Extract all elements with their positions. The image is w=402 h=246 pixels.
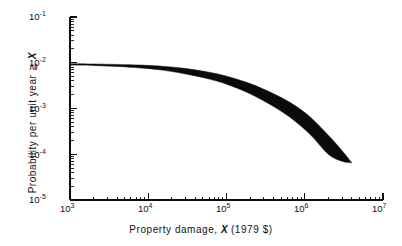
axis-group <box>70 17 383 200</box>
x-tick-label-1: 104 <box>138 203 152 214</box>
y-axis-title-wrap: Probability per unit year ≧ X <box>20 0 44 246</box>
data-band-group <box>70 64 352 163</box>
y-axis-title: Probability per unit year ≧ X <box>27 53 38 194</box>
x-tick-label-2: 105 <box>216 203 230 214</box>
chart-figure: 10-1 10-2 10-3 10-4 10-5 103 104 105 106… <box>0 0 402 246</box>
uncertainty-band <box>70 64 352 163</box>
x-tick-label-3: 106 <box>294 203 308 214</box>
x-axis-title: Property damage, X (1979 $) <box>0 224 402 235</box>
x-tick-label-4: 107 <box>372 203 386 214</box>
x-tick-label-0: 103 <box>60 203 74 214</box>
